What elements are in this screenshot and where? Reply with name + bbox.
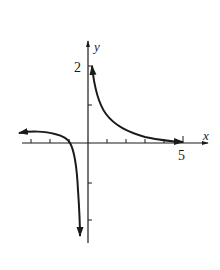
- curve-right-branch: [92, 66, 183, 142]
- y-axis-label: y: [92, 39, 100, 54]
- y-tick-label-2: 2: [74, 60, 81, 75]
- curve-left-branch: [19, 132, 80, 236]
- x-tick-label-5: 5: [178, 148, 185, 163]
- x-axis-label: x: [202, 128, 209, 143]
- function-graph: x y 5 2: [0, 0, 220, 270]
